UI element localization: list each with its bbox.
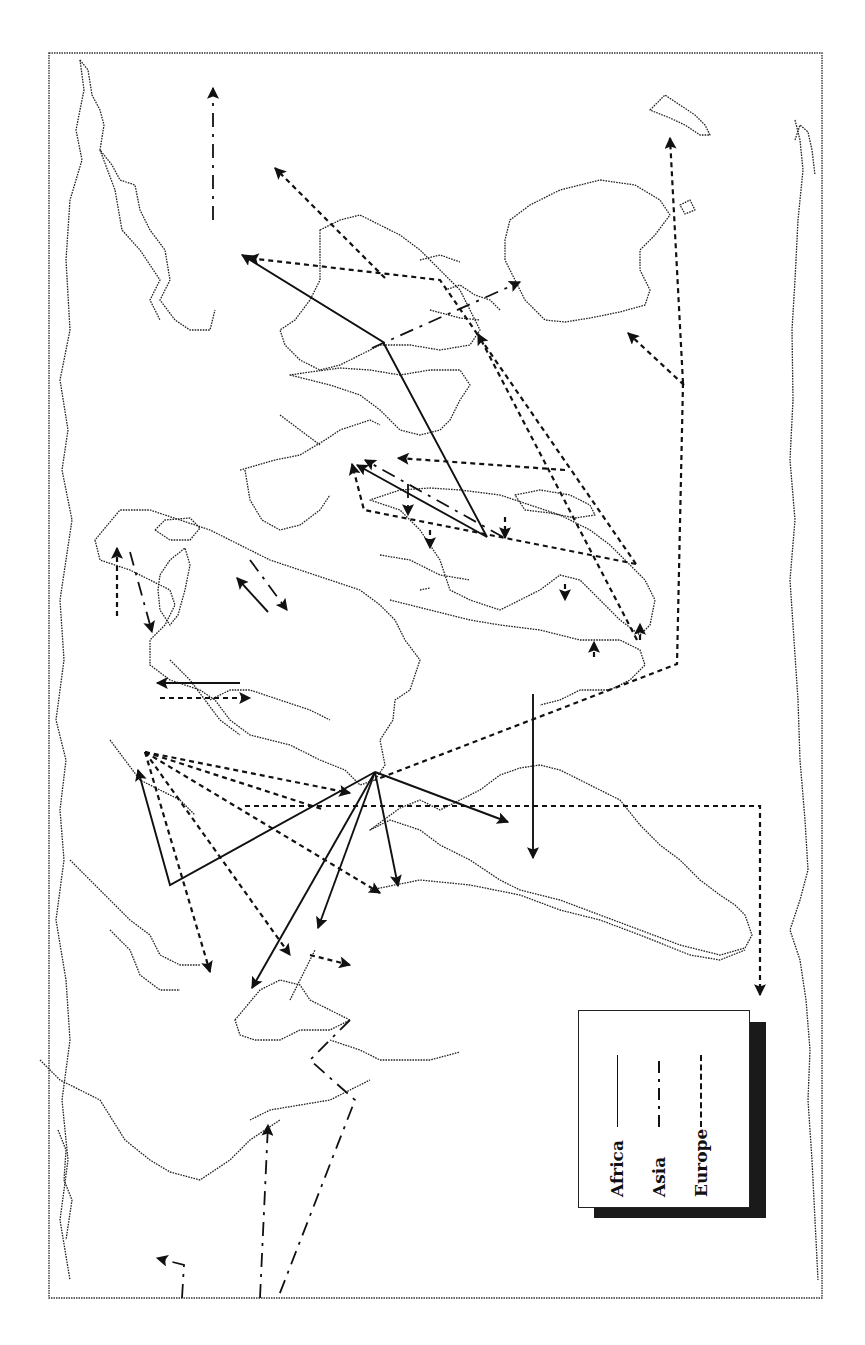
legend-label-europe: Europe bbox=[691, 1127, 711, 1197]
legend-swatch-solid-line-icon bbox=[617, 1055, 618, 1127]
legend-label-africa: Africa bbox=[607, 1127, 627, 1197]
legend-item-europe: Europe bbox=[691, 1055, 711, 1197]
legend-swatch-dash-dot-line-icon bbox=[658, 1055, 660, 1127]
legend-swatch-dashed-line-icon bbox=[700, 1055, 702, 1127]
routes-africa bbox=[138, 255, 533, 988]
legend: Africa Asia Europe bbox=[578, 1010, 750, 1208]
legend-content: Africa Asia Europe bbox=[579, 1011, 751, 1209]
routes-asia bbox=[130, 88, 520, 1298]
legend-item-asia: Asia bbox=[649, 1055, 669, 1197]
routes-europe bbox=[117, 138, 760, 995]
legend-item-africa: Africa bbox=[607, 1055, 627, 1197]
legend-label-asia: Asia bbox=[649, 1127, 669, 1197]
